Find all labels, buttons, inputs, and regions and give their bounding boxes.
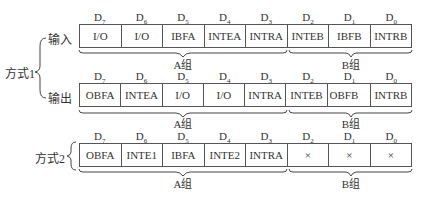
- mode2-group-a: A组: [168, 175, 198, 191]
- bit-label: D2: [287, 70, 329, 82]
- bit-label: D3: [246, 70, 288, 82]
- bit-label: D0: [370, 130, 412, 142]
- register-cell: INTRA: [246, 25, 288, 47]
- bit-label: D5: [162, 130, 204, 142]
- bit-label: D5: [162, 70, 204, 82]
- register-cell: INTEA: [205, 25, 247, 47]
- mode1-output-group-b: B组: [336, 115, 366, 131]
- bit-label: D0: [370, 70, 412, 82]
- bit-label: D1: [329, 11, 371, 23]
- bit-label: D2: [287, 11, 329, 23]
- bit-label: D0: [370, 11, 412, 23]
- register-cell: INTEB: [286, 84, 327, 106]
- mode1-input-register: I/O I/O IBFA INTEA INTRA INTEB IBFB INTR…: [79, 24, 412, 48]
- mode1-output-label: 输出: [48, 89, 72, 107]
- register-cell: INTEB: [288, 25, 330, 47]
- register-cell: INTE1: [122, 144, 164, 166]
- bit-label: D5: [162, 11, 204, 23]
- mode1-input-bit-header: D7 D6 D5 D4 D3 D2 D1 D0: [79, 11, 412, 23]
- register-cell: IBFA: [163, 144, 205, 166]
- register-cell: OBFA: [80, 84, 121, 106]
- register-cell: I/O: [122, 25, 164, 47]
- register-cell: ×: [288, 144, 330, 166]
- bit-label: D6: [121, 70, 163, 82]
- register-cell: INTRA: [246, 144, 288, 166]
- bit-label: D1: [329, 70, 371, 82]
- register-cell: I/O: [80, 25, 122, 47]
- bit-label: D6: [121, 11, 163, 23]
- register-cell: I/O: [163, 84, 204, 106]
- register-cell: INTRB: [371, 25, 412, 47]
- register-cell: IBFB: [329, 25, 371, 47]
- bit-label: D3: [246, 130, 288, 142]
- bit-label: D7: [79, 130, 121, 142]
- register-cell: ×: [371, 144, 412, 166]
- bit-label: D6: [121, 130, 163, 142]
- register-cell: INTE2: [205, 144, 247, 166]
- mode2-bit-header: D7 D6 D5 D4 D3 D2 D1 D0: [79, 130, 412, 142]
- bit-label: D4: [204, 130, 246, 142]
- mode1-output-bit-header: D7 D6 D5 D4 D3 D2 D1 D0: [79, 70, 412, 82]
- bit-label: D3: [246, 11, 288, 23]
- bit-label: D7: [79, 11, 121, 23]
- bit-label: D1: [329, 130, 371, 142]
- register-cell: OBFA: [80, 144, 122, 166]
- mode2-label: 方式2: [35, 149, 65, 167]
- register-cell: I/O: [204, 84, 245, 106]
- mode1-label: 方式1: [5, 64, 35, 82]
- register-cell: OBFB: [328, 84, 371, 106]
- mode2-group-b: B组: [336, 175, 366, 191]
- mode1-input-label: 输入: [48, 30, 72, 48]
- register-cell: INTRA: [245, 84, 286, 106]
- register-cell: INTEA: [121, 84, 162, 106]
- register-cell: ×: [329, 144, 371, 166]
- register-cell: IBFA: [163, 25, 205, 47]
- register-cell: INTRB: [371, 84, 411, 106]
- bit-label: D2: [287, 130, 329, 142]
- bit-label: D4: [204, 70, 246, 82]
- bit-label: D4: [204, 11, 246, 23]
- mode1-output-group-a: A组: [168, 115, 198, 131]
- mode2-register: OBFA INTE1 IBFA INTE2 INTRA × × ×: [79, 143, 412, 167]
- bit-label: D7: [79, 70, 121, 82]
- mode1-output-register: OBFA INTEA I/O I/O INTRA INTEB OBFB INTR…: [79, 83, 412, 107]
